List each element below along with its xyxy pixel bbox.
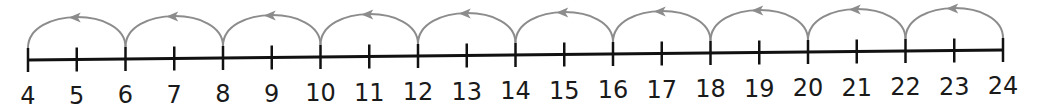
number-line-diagram: 456789101112131415161718192021222324 — [0, 0, 1041, 112]
tick-label: 4 — [20, 82, 35, 110]
tick-label: 20 — [793, 74, 824, 102]
tick-label: 24 — [988, 72, 1019, 100]
tick-label: 5 — [69, 82, 84, 110]
jump-arc — [808, 9, 906, 40]
tick-labels: 456789101112131415161718192021222324 — [20, 72, 1018, 110]
jump-arc — [126, 16, 224, 47]
tick-label: 12 — [403, 78, 434, 106]
tick-label: 22 — [890, 73, 921, 101]
tick-label: 10 — [305, 79, 336, 107]
tick-label: 15 — [549, 77, 580, 105]
ticks — [28, 38, 1003, 72]
jump-arc — [418, 13, 516, 44]
tick-label: 13 — [451, 78, 482, 106]
tick-label: 19 — [744, 75, 775, 103]
tick-label: 11 — [354, 79, 385, 107]
tick-label: 9 — [264, 80, 279, 108]
tick-label: 6 — [118, 81, 133, 109]
jump-arc — [711, 10, 809, 41]
jump-arc — [613, 11, 711, 42]
jump-arc — [28, 17, 126, 48]
tick-label: 8 — [215, 80, 230, 108]
tick-label: 23 — [939, 73, 970, 101]
jump-arc — [223, 15, 321, 46]
jump-arc — [321, 14, 419, 45]
jump-arc — [906, 8, 1004, 39]
jump-arc — [516, 12, 614, 43]
tick-label: 14 — [500, 77, 531, 105]
tick-label: 16 — [598, 76, 629, 104]
tick-label: 21 — [841, 74, 872, 102]
tick-label: 18 — [695, 75, 726, 103]
tick-label: 17 — [646, 76, 677, 104]
tick-label: 7 — [167, 81, 182, 109]
